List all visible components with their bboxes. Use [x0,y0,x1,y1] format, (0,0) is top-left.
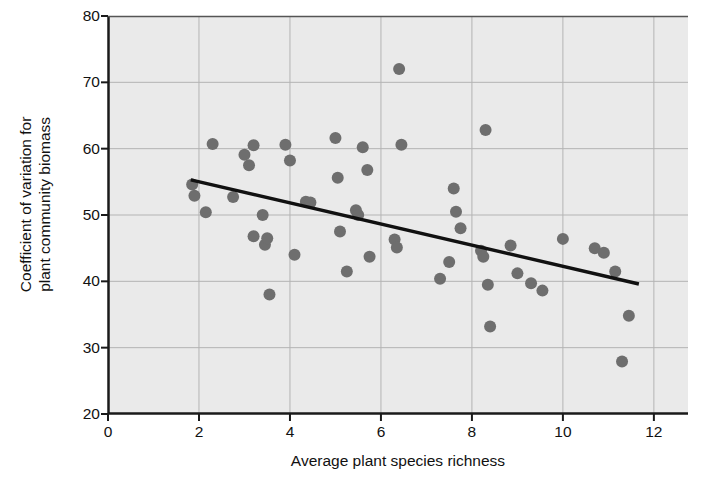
y-tick-label: 50 [60,206,100,224]
data-point [511,267,523,279]
data-point [450,206,462,218]
x-tick-label: 8 [452,423,492,441]
data-point [616,356,628,368]
data-point [609,265,621,277]
data-point [227,191,239,203]
y-axis-label: Coefficient of variation for plant commu… [16,0,55,414]
data-point [623,310,635,322]
data-point [248,230,260,242]
x-tick-label: 12 [634,423,674,441]
data-point [455,222,467,234]
y-tick-label: 80 [60,7,100,25]
data-point [263,289,275,301]
data-point [329,132,341,144]
data-point [238,149,250,161]
data-point [391,242,403,254]
data-point [395,139,407,151]
data-point [332,172,344,184]
data-point [598,247,610,259]
y-tick-label: 70 [60,73,100,91]
data-point [200,206,212,218]
data-point [334,226,346,238]
x-axis-label: Average plant species richness [108,452,688,470]
plot-area [108,16,688,414]
trend-line [191,180,639,284]
data-point [477,251,489,263]
x-axis-tick-labels: 024681012 [0,423,705,445]
data-point [243,159,255,171]
data-point [480,124,492,136]
y-axis-tick-labels: 20304050607080 [56,0,100,485]
x-tick-label: 4 [270,423,310,441]
scatter-plot-figure: 20304050607080 024681012 Coefficient of … [0,0,705,485]
x-tick-label: 10 [543,423,583,441]
data-point [484,320,496,332]
data-point [207,138,219,150]
data-point [536,285,548,297]
data-point [443,256,455,268]
data-point [525,277,537,289]
data-point [357,141,369,153]
data-point [505,240,517,252]
x-tick-label: 2 [179,423,219,441]
data-point [361,164,373,176]
y-tick-label: 60 [60,140,100,158]
data-point [393,63,405,75]
data-point [289,249,301,261]
data-point [257,209,269,221]
y-tick-label: 20 [60,405,100,423]
data-point [261,232,273,244]
x-tick-label: 0 [88,423,128,441]
y-tick-label: 30 [60,339,100,357]
data-point [188,190,200,202]
x-tick-label: 6 [361,423,401,441]
y-tick-label: 40 [60,272,100,290]
data-point [482,279,494,291]
data-point [557,233,569,245]
plot-canvas [108,16,688,414]
data-point [364,251,376,263]
data-point [448,182,460,194]
data-point [279,139,291,151]
data-point [434,273,446,285]
data-point [341,265,353,277]
data-point [248,139,260,151]
data-point [284,155,296,167]
